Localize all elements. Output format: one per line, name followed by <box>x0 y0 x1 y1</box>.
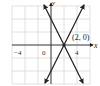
point-label: (2, 0) <box>72 33 90 42</box>
tick-label-0: 0 <box>42 49 46 57</box>
tick-label-4: 4 <box>75 49 79 57</box>
coordinate-graph: y x (2, 0) −4 0 4 <box>0 0 100 86</box>
intersection-point <box>62 43 65 46</box>
x-axis-label: x <box>93 41 98 50</box>
tick-label-neg4: −4 <box>14 49 22 57</box>
